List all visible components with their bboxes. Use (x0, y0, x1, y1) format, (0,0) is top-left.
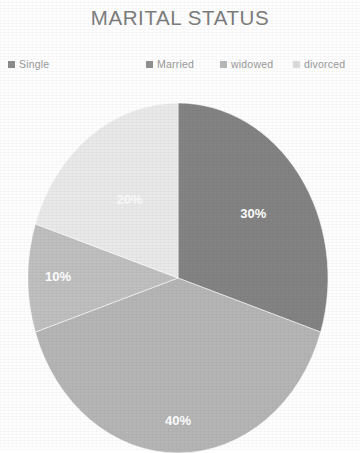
legend-item-married[interactable]: Married (146, 58, 194, 70)
legend-item-divorced[interactable]: divorced (293, 58, 345, 70)
square-swatch-icon (146, 61, 153, 68)
legend-item-label: widowed (231, 58, 273, 70)
pie-slice-value-label: 40% (165, 413, 191, 428)
chart-legend: Single Married widowed divorced (8, 58, 356, 74)
square-swatch-icon (220, 61, 227, 68)
square-swatch-icon (293, 61, 300, 68)
pie-slice-value-label: 20% (116, 192, 142, 207)
legend-item-widowed[interactable]: widowed (220, 58, 273, 70)
legend-item-label: Single (19, 58, 49, 70)
chart-title: MARITAL STATUS (0, 6, 360, 30)
pie-svg: 30%40%10%20% (28, 103, 328, 453)
legend-item-label: Married (157, 58, 194, 70)
pie-slice-value-label: 30% (240, 206, 266, 221)
square-swatch-icon (8, 61, 15, 68)
pie-slice-value-label: 10% (45, 269, 71, 284)
pie-slices (28, 103, 328, 453)
legend-item-single[interactable]: Single (8, 58, 49, 70)
legend-item-label: divorced (304, 58, 345, 70)
pie-plot-area: 30%40%10%20% (28, 103, 328, 453)
